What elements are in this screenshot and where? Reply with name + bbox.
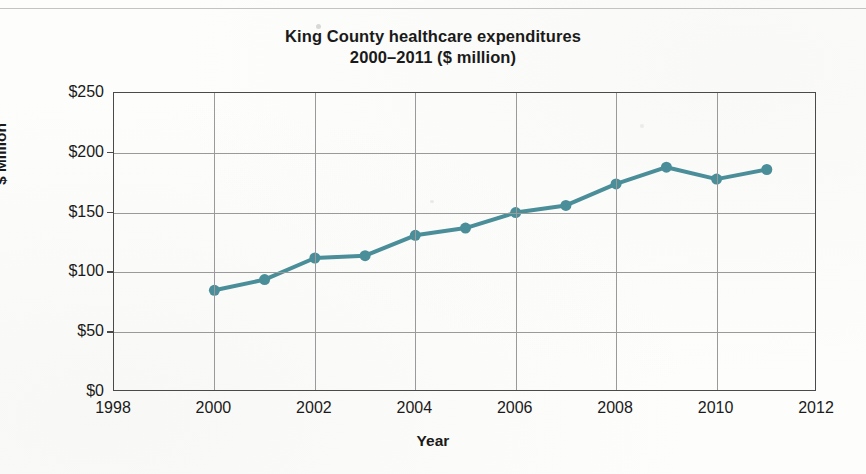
chart-title: King County healthcare expenditures 2000…: [0, 26, 866, 68]
gridline-horizontal: [114, 272, 815, 273]
data-point: [259, 274, 270, 285]
scan-artifact-line: [0, 8, 866, 9]
x-axis-tick-label: 2010: [671, 399, 761, 417]
gridline-horizontal: [114, 332, 815, 333]
y-axis-tick-label: $0: [0, 382, 104, 400]
expenditure-markers: [209, 162, 772, 296]
gridline-vertical: [415, 93, 416, 390]
chart-title-main: King County healthcare expenditures: [285, 27, 581, 45]
x-axis-title: Year: [0, 432, 866, 450]
gridline-vertical: [616, 93, 617, 390]
y-axis-tick-label: $50: [0, 322, 104, 340]
data-point: [460, 223, 471, 234]
x-axis-tick-label: 2012: [771, 399, 861, 417]
x-axis-tick-label: 2008: [570, 399, 660, 417]
gridline-horizontal: [114, 213, 815, 214]
y-axis-tick-label: $200: [0, 143, 104, 161]
y-axis-tick-label: $100: [0, 262, 104, 280]
gridline-vertical: [214, 93, 215, 390]
x-axis-tick-label: 2006: [470, 399, 560, 417]
data-point: [761, 164, 772, 175]
x-axis-tick-label: 2002: [269, 399, 359, 417]
x-axis-tick-label: 1998: [68, 399, 158, 417]
data-point: [560, 200, 571, 211]
x-axis-tick-label: 2004: [369, 399, 459, 417]
y-axis-tick-label: $250: [0, 83, 104, 101]
chart-subtitle: 2000–2011 ($ million): [0, 47, 866, 68]
x-axis-tick-label: 2000: [168, 399, 258, 417]
gridline-vertical: [516, 93, 517, 390]
plot-area: [113, 92, 816, 391]
chart-page: King County healthcare expenditures 2000…: [0, 0, 866, 474]
data-point: [360, 250, 371, 261]
gridline-vertical: [717, 93, 718, 390]
gridline-horizontal: [114, 153, 815, 154]
data-point: [661, 162, 672, 173]
data-series-layer: [114, 93, 817, 392]
y-axis-tick-label: $150: [0, 203, 104, 221]
gridline-vertical: [315, 93, 316, 390]
